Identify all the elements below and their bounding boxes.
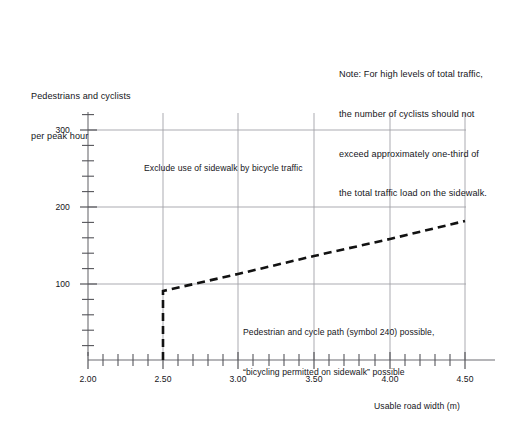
- annotation-exclude-region: Exclude use of sidewalk by bicycle traff…: [144, 162, 303, 175]
- x-tick-label-2-50: 2.50: [143, 374, 183, 384]
- annotation-permitted-region: Pedestrian and cycle path (symbol 240) p…: [243, 300, 434, 406]
- note-line-2: the number of cyclists should not: [339, 108, 487, 121]
- annotation-permitted-line2: “bicycling permitted on sidewalk” possib…: [243, 366, 434, 379]
- y-axis-title-line1: Pedestrians and cyclists: [31, 90, 131, 103]
- y-axis-title-line2: per peak hour: [31, 130, 131, 143]
- note-block: Note: For high levels of total traffic, …: [339, 42, 487, 227]
- annotation-permitted-line1: Pedestrian and cycle path (symbol 240) p…: [243, 326, 434, 339]
- y-tick-label-100: 100: [36, 279, 70, 289]
- y-axis-title: Pedestrians and cyclists per peak hour: [31, 64, 131, 170]
- note-line-3: exceed approximately one-third of: [339, 148, 487, 161]
- note-line-4: the total traffic load on the sidewalk.: [339, 187, 487, 200]
- x-tick-label-4-50: 4.50: [445, 374, 485, 384]
- y-tick-label-200: 200: [36, 202, 70, 212]
- chart-figure: 300 200 100 2.00 2.50 3.00 3.50 4.00 4.5…: [0, 0, 505, 436]
- note-line-1: Note: For high levels of total traffic,: [339, 68, 487, 81]
- x-tick-label-2-00: 2.00: [68, 374, 108, 384]
